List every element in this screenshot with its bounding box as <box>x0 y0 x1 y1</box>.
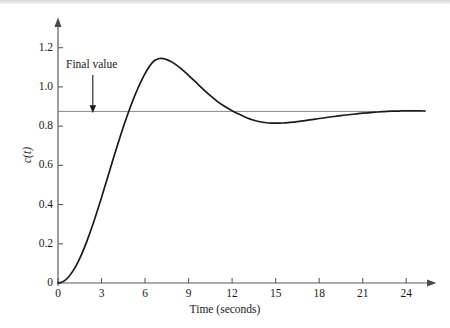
response-curve <box>58 58 425 283</box>
chart-canvas <box>0 0 450 328</box>
final-value-annotation-label: Final value <box>66 58 117 70</box>
x-tick-label: 12 <box>212 288 252 300</box>
y-axis-tick-marks <box>58 48 63 244</box>
y-tick-label: 0.4 <box>10 199 53 211</box>
x-tick-label: 21 <box>343 288 383 300</box>
y-tick-label: 0.2 <box>10 238 53 250</box>
x-tick-label: 9 <box>169 288 209 300</box>
y-tick-label: 1.0 <box>10 81 53 93</box>
x-tick-label: 15 <box>256 288 296 300</box>
x-tick-label: 3 <box>82 288 122 300</box>
x-axis-title: Time (seconds) <box>0 303 450 315</box>
x-tick-label: 24 <box>386 288 426 300</box>
y-tick-label: 0.8 <box>10 120 53 132</box>
x-axis-tick-marks <box>58 278 406 283</box>
step-response-chart: 03691215182124 00.20.40.60.81.01.2 Time … <box>0 0 450 328</box>
x-tick-label: 18 <box>299 288 339 300</box>
y-axis-title: c(t) <box>21 133 33 177</box>
x-tick-label: 0 <box>38 288 78 300</box>
y-tick-label: 0 <box>10 277 53 289</box>
x-tick-label: 6 <box>125 288 165 300</box>
y-tick-label: 1.2 <box>10 42 53 54</box>
